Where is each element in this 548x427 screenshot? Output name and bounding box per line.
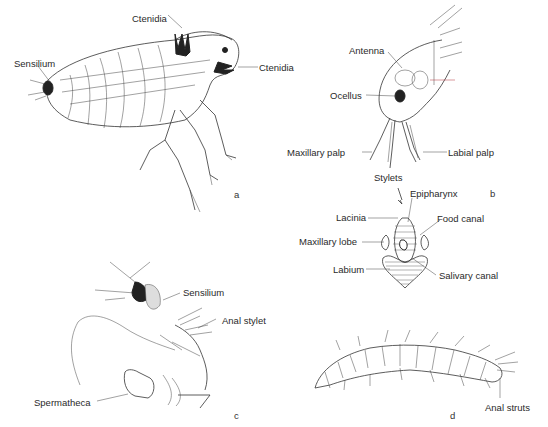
label-ocellus: Ocellus [330,91,362,101]
mouthparts-cross-section [382,218,429,288]
panel-letter-b: b [490,189,495,199]
label-epipharynx: Epipharynx [410,189,458,199]
panel-letter-a: a [234,190,239,200]
label-spermatheca: Spermatheca [34,398,91,408]
label-labial-palp: Labial palp [448,148,494,158]
label-anal-stylet: Anal stylet [222,316,266,326]
label-food-canal: Food canal [437,214,484,224]
label-sensilium-a: Sensilium [14,59,55,69]
label-antenna: Antenna [349,46,384,56]
flea-adult-drawing [28,32,239,212]
panel-letter-d: d [450,411,455,421]
label-ctenidia-right: Ctenidia [259,63,294,73]
label-ctenidia-top: Ctenidia [132,14,167,24]
larva-drawing [315,330,518,395]
label-sensilium-c: Sensilium [183,288,224,298]
panel-letter-c: c [234,411,239,421]
label-maxillary-lobe: Maxillary lobe [299,237,357,247]
label-stylets: Stylets [374,173,403,183]
label-anal-struts: Anal struts [485,403,530,413]
label-lacinia: Lacinia [336,213,366,223]
terminal-segments-drawing [71,262,212,408]
label-salivary-canal: Salivary canal [439,271,498,281]
label-labium: Labium [333,265,364,275]
label-maxillary-palp: Maxillary palp [287,148,345,158]
